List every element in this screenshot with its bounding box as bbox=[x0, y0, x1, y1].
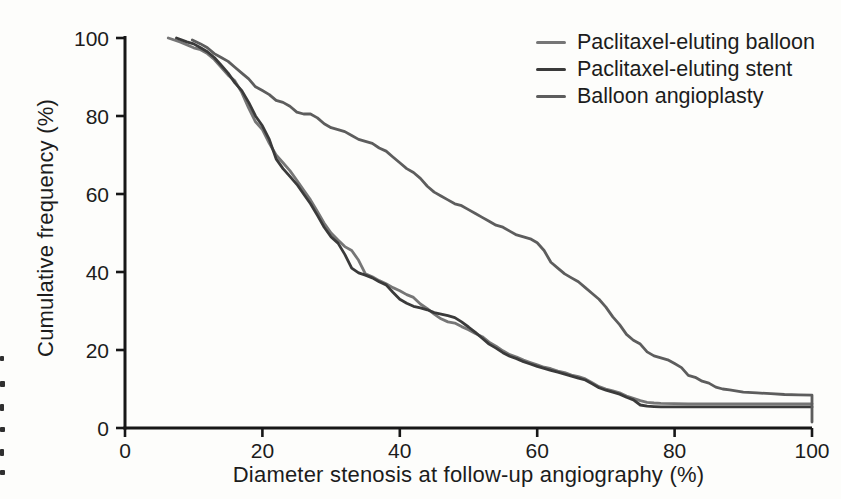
legend: Paclitaxel-eluting balloon Paclitaxel-el… bbox=[536, 29, 815, 110]
y-tick-label: 0 bbox=[97, 417, 109, 440]
x-tick-label: 40 bbox=[388, 439, 411, 462]
legend-line-swatch-icon bbox=[536, 68, 566, 72]
y-tick-label: 40 bbox=[86, 261, 109, 284]
cumulative-frequency-figure: 020406080100020406080100 Cumulative freq… bbox=[0, 0, 841, 499]
page-edge-text-fragment bbox=[0, 449, 4, 456]
legend-label: Paclitaxel-eluting stent bbox=[577, 57, 792, 82]
y-axis-title: Cumulative frequency (%) bbox=[33, 99, 59, 357]
x-tick-label: 0 bbox=[119, 439, 131, 462]
x-tick-label: 80 bbox=[663, 439, 686, 462]
x-tick-label: 100 bbox=[794, 439, 829, 462]
page-edge-text-fragment bbox=[0, 470, 5, 475]
legend-item-balloon-angioplasty: Balloon angioplasty bbox=[536, 83, 815, 110]
page-edge-text-fragment bbox=[0, 356, 4, 361]
legend-item-paclitaxel-eluting-balloon: Paclitaxel-eluting balloon bbox=[536, 29, 815, 56]
page-edge-text-fragment bbox=[0, 381, 5, 387]
legend-line-swatch-icon bbox=[536, 41, 566, 45]
y-tick-label: 100 bbox=[74, 27, 109, 50]
legend-item-paclitaxel-eluting-stent: Paclitaxel-eluting stent bbox=[536, 56, 815, 83]
x-tick-label: 60 bbox=[526, 439, 549, 462]
page-edge-text-fragment bbox=[0, 427, 5, 432]
legend-label: Balloon angioplasty bbox=[577, 84, 763, 109]
x-axis-title: Diameter stenosis at follow-up angiograp… bbox=[125, 462, 812, 488]
y-tick-label: 20 bbox=[86, 339, 109, 362]
x-tick-label: 20 bbox=[251, 439, 274, 462]
legend-label: Paclitaxel-eluting balloon bbox=[577, 30, 815, 55]
y-tick-label: 60 bbox=[86, 183, 109, 206]
legend-line-swatch-icon bbox=[536, 95, 566, 99]
y-tick-label: 80 bbox=[86, 105, 109, 128]
page-edge-text-fragment bbox=[0, 404, 4, 411]
